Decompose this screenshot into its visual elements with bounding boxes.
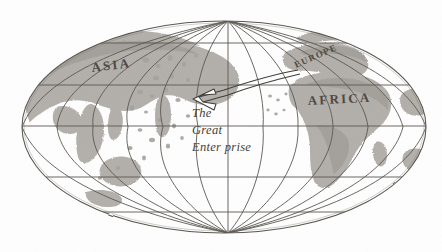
paper-texture-overlay: [0, 0, 442, 252]
world-map-figure: ASIA EUROPE AFRICA The Great Enter prise: [0, 0, 442, 252]
world-map-canvas: ASIA EUROPE AFRICA The Great Enter prise: [0, 0, 442, 252]
